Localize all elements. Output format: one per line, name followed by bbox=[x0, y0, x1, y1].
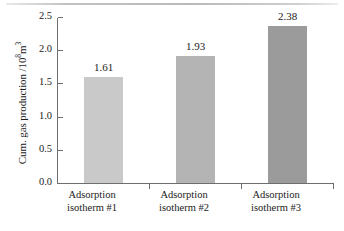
x-category-label-3: Adsorption isotherm #3 bbox=[230, 189, 322, 214]
y-tick-label: 0.5 bbox=[39, 143, 52, 154]
y-tick-mark bbox=[58, 150, 63, 151]
y-tick-group: 2.0 bbox=[57, 50, 63, 51]
y-tick-label: 2.0 bbox=[39, 43, 52, 54]
category-divider-tick bbox=[333, 184, 334, 189]
bar-chart-figure: Cum. gas production /108m3 0.0 0.5 1.0 1… bbox=[0, 0, 344, 231]
y-tick-mark bbox=[58, 183, 63, 184]
x-category-label-1-line1: Adsorption bbox=[46, 189, 138, 202]
y-tick-group: 0.5 bbox=[57, 150, 63, 151]
bar-value-label: 1.93 bbox=[186, 40, 205, 52]
y-tick-label: 1.5 bbox=[39, 76, 52, 87]
x-category-label-2-line2: isotherm #2 bbox=[138, 202, 230, 215]
y-tick-label: 2.5 bbox=[39, 10, 52, 21]
y-tick-mark bbox=[58, 83, 63, 84]
y-tick-mark bbox=[58, 17, 63, 18]
x-axis-line bbox=[57, 183, 334, 184]
bar-adsorption-isotherm-1[interactable]: 1.61 bbox=[84, 77, 123, 183]
y-tick-group: 1.0 bbox=[57, 117, 63, 118]
bar-value-label: 2.38 bbox=[278, 10, 297, 22]
y-axis-line bbox=[57, 18, 58, 184]
x-category-label-1-line2: isotherm #1 bbox=[46, 202, 138, 215]
y-axis-title-unit-exponent: 3 bbox=[14, 42, 23, 46]
y-tick-group: 0.0 bbox=[57, 183, 63, 184]
y-tick-group: 1.5 bbox=[57, 83, 63, 84]
plot-area: 0.0 0.5 1.0 1.5 2.0 2.5 1.61 bbox=[57, 18, 334, 184]
y-tick-group: 2.5 bbox=[57, 17, 63, 18]
x-category-label-3-line1: Adsorption bbox=[230, 189, 322, 202]
x-category-label-2-line1: Adsorption bbox=[138, 189, 230, 202]
y-tick-label: 1.0 bbox=[39, 110, 52, 121]
y-axis-title-text: Cum. gas production /10 bbox=[16, 58, 28, 164]
bar-adsorption-isotherm-3[interactable]: 2.38 bbox=[268, 26, 307, 183]
y-tick-mark bbox=[58, 117, 63, 118]
y-tick-mark bbox=[58, 50, 63, 51]
x-category-label-1: Adsorption isotherm #1 bbox=[46, 189, 138, 214]
x-category-label-3-line2: isotherm #3 bbox=[230, 202, 322, 215]
bar-adsorption-isotherm-2[interactable]: 1.93 bbox=[176, 56, 215, 183]
y-axis-title-exponent: 8 bbox=[14, 54, 23, 58]
y-axis-title-unit: m bbox=[16, 46, 28, 54]
bar-value-label: 1.61 bbox=[94, 61, 113, 73]
x-category-label-2: Adsorption isotherm #2 bbox=[138, 189, 230, 214]
y-tick-label: 0.0 bbox=[39, 176, 52, 187]
y-axis-title: Cum. gas production /108m3 bbox=[16, 18, 28, 188]
